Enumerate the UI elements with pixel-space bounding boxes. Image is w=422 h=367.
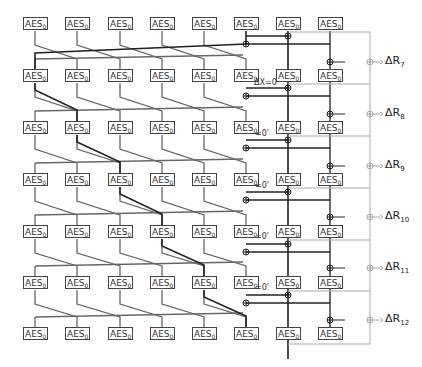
aes-box: AES0 bbox=[108, 327, 133, 340]
aes-label: AES0 bbox=[110, 123, 131, 133]
output-delta-r-label: ΔR10 bbox=[385, 209, 409, 224]
aes-box: AES0 bbox=[23, 173, 48, 186]
aes-box: AES0 bbox=[318, 121, 343, 134]
aes-box: AES0 bbox=[318, 327, 343, 340]
aes-box: AES0 bbox=[276, 327, 301, 340]
aes-label: AES0 bbox=[278, 123, 299, 133]
aes-box: AES0 bbox=[150, 17, 175, 30]
aes-label: AES0 bbox=[152, 329, 173, 339]
aes-label: AES0 bbox=[25, 278, 46, 288]
aes-box: AES0 bbox=[65, 17, 90, 30]
aes-box: AES0 bbox=[276, 17, 301, 30]
aes-box: AES0 bbox=[192, 121, 217, 134]
aes-label: AES0 bbox=[320, 227, 341, 237]
aes-box: AES0 bbox=[65, 121, 90, 134]
aes-box: AES0 bbox=[150, 121, 175, 134]
aes-box: AES0 bbox=[192, 17, 217, 30]
aes-label: AES0 bbox=[236, 329, 257, 339]
aes-box: AES0 bbox=[108, 121, 133, 134]
output-delta-r-label: ΔR11 bbox=[385, 260, 409, 275]
aes-label: AES0 bbox=[152, 175, 173, 185]
aes-box: AES0 bbox=[23, 17, 48, 30]
aes-box: AES0 bbox=[23, 327, 48, 340]
annotation-label: =0' bbox=[255, 129, 269, 138]
aes-box: AES0 bbox=[108, 69, 133, 82]
aes-box: AES0 bbox=[276, 121, 301, 134]
aes-label: AES0 bbox=[152, 278, 173, 288]
aes-box: AES0 bbox=[276, 69, 301, 82]
aes-label: AES0 bbox=[67, 227, 88, 237]
aes-label: AES0 bbox=[67, 123, 88, 133]
aes-label: AES0 bbox=[67, 329, 88, 339]
output-delta-r-label: ΔR8 bbox=[385, 106, 405, 121]
aes-label: AES0 bbox=[152, 227, 173, 237]
aes-label: AES0 bbox=[320, 278, 341, 288]
aes-box: AES0 bbox=[318, 276, 343, 289]
aes-box: AES0 bbox=[65, 327, 90, 340]
aes-label: AES0 bbox=[110, 71, 131, 81]
aes-box: AES0 bbox=[65, 276, 90, 289]
aes-box: AES0 bbox=[318, 69, 343, 82]
aes-label: AES0 bbox=[320, 123, 341, 133]
aes-box: AES0 bbox=[65, 69, 90, 82]
aes-label: AES0 bbox=[110, 175, 131, 185]
aes-label: AES0 bbox=[110, 227, 131, 237]
aes-label: AES0 bbox=[152, 19, 173, 29]
aes-label: AES0 bbox=[194, 19, 215, 29]
aes-label: AES0 bbox=[194, 329, 215, 339]
aes-label: AES0 bbox=[25, 71, 46, 81]
aes-label: AES0 bbox=[110, 278, 131, 288]
aes-label: AES0 bbox=[320, 71, 341, 81]
aes-box: AES0 bbox=[276, 173, 301, 186]
aes-label: AES0 bbox=[194, 123, 215, 133]
aes-label: AES0 bbox=[67, 71, 88, 81]
aes-label: AES0 bbox=[278, 19, 299, 29]
aes-label: AES0 bbox=[278, 329, 299, 339]
aes-box: AES0 bbox=[23, 225, 48, 238]
aes-box: AES0 bbox=[192, 225, 217, 238]
aes-box: AES0 bbox=[318, 225, 343, 238]
annotation-label: =0' bbox=[255, 283, 269, 292]
aes-box: AES0 bbox=[108, 276, 133, 289]
output-delta-r-label: ΔR12 bbox=[385, 312, 409, 327]
aes-label: AES0 bbox=[278, 71, 299, 81]
aes-label: AES0 bbox=[67, 175, 88, 185]
aes-label: AES0 bbox=[278, 227, 299, 237]
annotation-label: =0' bbox=[255, 181, 269, 190]
aes-box: AES0 bbox=[23, 121, 48, 134]
aes-box: AES0 bbox=[150, 173, 175, 186]
aes-label: AES0 bbox=[278, 175, 299, 185]
aes-box: AES0 bbox=[108, 173, 133, 186]
annotation-label: =0' bbox=[255, 232, 269, 241]
aes-box: AES0 bbox=[318, 17, 343, 30]
aes-box: AES0 bbox=[276, 225, 301, 238]
aes-box: AES0 bbox=[192, 173, 217, 186]
aes-box: AES0 bbox=[65, 225, 90, 238]
aes-box: AES0 bbox=[150, 276, 175, 289]
aes-label: AES0 bbox=[25, 19, 46, 29]
aes-label: AES0 bbox=[67, 19, 88, 29]
aes-box: AES0 bbox=[108, 17, 133, 30]
aes-label: AES0 bbox=[320, 19, 341, 29]
aes-label: AES0 bbox=[152, 123, 173, 133]
aes-label: AES0 bbox=[25, 329, 46, 339]
aes-label: AES0 bbox=[194, 227, 215, 237]
aes-box: AES0 bbox=[150, 225, 175, 238]
aes-label: AES0 bbox=[320, 175, 341, 185]
aes-box: AES0 bbox=[318, 173, 343, 186]
aes-label: AES0 bbox=[152, 71, 173, 81]
aes-box: AES0 bbox=[108, 225, 133, 238]
aes-box: AES0 bbox=[23, 276, 48, 289]
aes-box: AES0 bbox=[192, 327, 217, 340]
aes-box: AES0 bbox=[150, 327, 175, 340]
aes-label: AES0 bbox=[25, 123, 46, 133]
aes-box: AES0 bbox=[150, 69, 175, 82]
aes-label: AES0 bbox=[194, 278, 215, 288]
aes-label: AES0 bbox=[110, 329, 131, 339]
aes-box: AES0 bbox=[65, 173, 90, 186]
aes-label: AES0 bbox=[194, 175, 215, 185]
aes-label: AES0 bbox=[67, 278, 88, 288]
aes-label: AES0 bbox=[25, 175, 46, 185]
aes-box: AES0 bbox=[276, 276, 301, 289]
aes-box: AES0 bbox=[234, 17, 259, 30]
